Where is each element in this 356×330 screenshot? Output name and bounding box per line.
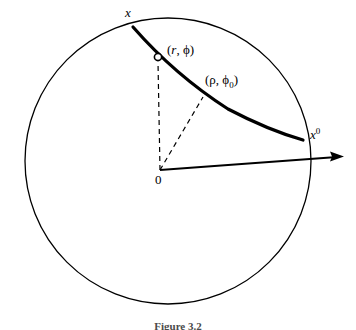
label-curve-point: (ρ, ϕ0) xyxy=(205,73,238,86)
label-boundary-point-x: x xyxy=(125,6,131,19)
label-interior-point: (r, ϕ) xyxy=(167,43,194,56)
dashed-radius-r xyxy=(158,62,160,170)
figure-container: x (r, ϕ) (ρ, ϕ0) x0 0 Figure 3.2 xyxy=(0,0,356,330)
label-origin: 0 xyxy=(155,173,162,186)
label-x0-superscript: 0 xyxy=(316,126,321,136)
label-interior-point-phi: ϕ xyxy=(183,42,190,57)
figure-caption: Figure 3.2 xyxy=(0,320,356,330)
dashed-radius-rho xyxy=(160,97,203,170)
axis-arrowhead-icon xyxy=(330,152,344,162)
point-marker-r-phi xyxy=(154,53,161,60)
label-curve-point-close: ) xyxy=(234,72,238,87)
label-interior-point-r: r xyxy=(171,42,176,57)
label-curve-point-main: (ρ, ϕ xyxy=(205,72,229,87)
label-reference-direction-x0: x0 xyxy=(310,128,320,141)
